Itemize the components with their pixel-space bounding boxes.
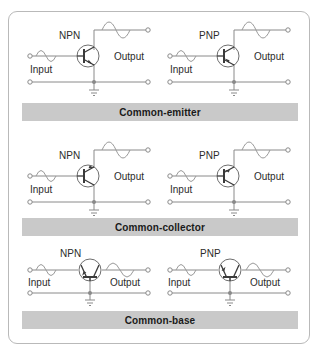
transistor-symbol-pnp	[217, 165, 239, 187]
circuit-cc-pnp: PNP Input Output	[162, 134, 302, 220]
circuit-cc-npn: NPN Input Output	[22, 134, 162, 220]
device-label: NPN	[60, 248, 81, 259]
output-terminal	[146, 28, 150, 32]
input-label: Input	[30, 64, 52, 75]
circuit-ce-npn: NPN Input Output	[22, 14, 162, 100]
ground-icon	[89, 82, 99, 96]
input-label: Input	[30, 184, 52, 195]
label-bar-common-collector: Common-collector	[22, 218, 298, 236]
output-terminal	[146, 148, 150, 152]
input-label: Input	[170, 64, 192, 75]
label-bar-common-base: Common-base	[22, 311, 298, 329]
transistor-symbol-npn	[79, 259, 101, 281]
output-label: Output	[110, 277, 140, 288]
label-common-emitter: Common-emitter	[119, 107, 200, 118]
output-return-terminal	[286, 291, 290, 295]
input-return-terminal	[28, 80, 32, 84]
input-return-terminal	[168, 200, 172, 204]
output-terminal	[286, 28, 290, 32]
transistor-symbol-npn	[77, 45, 99, 67]
input-label: Input	[168, 277, 190, 288]
ground-icon	[229, 202, 239, 216]
label-bar-common-emitter: Common-emitter	[22, 103, 298, 121]
output-return-terminal	[146, 80, 150, 84]
device-label: NPN	[59, 150, 80, 161]
device-label: NPN	[59, 30, 80, 41]
label-common-collector: Common-collector	[115, 222, 205, 233]
output-terminal	[286, 148, 290, 152]
output-label: Output	[114, 171, 144, 182]
ground-icon	[229, 82, 239, 96]
input-return-terminal	[28, 200, 32, 204]
ground-icon	[85, 293, 95, 306]
circuit-cb-npn: NPN Input Output	[22, 248, 162, 310]
device-label: PNP	[199, 150, 220, 161]
bjt-configurations-figure: NPN Input Output	[0, 0, 319, 355]
output-return-terminal	[286, 80, 290, 84]
device-label: PNP	[199, 30, 220, 41]
input-return-terminal	[28, 291, 32, 295]
output-label: Output	[254, 51, 284, 62]
transistor-symbol-pnp	[217, 45, 239, 67]
ground-icon	[89, 202, 99, 216]
output-terminal	[286, 268, 290, 272]
input-terminal	[28, 174, 32, 178]
input-label: Input	[28, 277, 50, 288]
circuit-ce-pnp: PNP Input Output	[162, 14, 302, 100]
input-return-terminal	[168, 80, 172, 84]
input-terminal	[28, 54, 32, 58]
input-terminal	[168, 54, 172, 58]
input-label: Input	[170, 184, 192, 195]
input-terminal	[28, 268, 32, 272]
label-common-base: Common-base	[125, 315, 196, 326]
input-terminal	[168, 268, 172, 272]
transistor-symbol-pnp	[219, 259, 241, 281]
output-terminal	[146, 268, 150, 272]
input-return-terminal	[168, 291, 172, 295]
output-label: Output	[250, 277, 280, 288]
output-label: Output	[254, 171, 284, 182]
transistor-symbol-npn	[77, 165, 99, 187]
output-label: Output	[114, 51, 144, 62]
output-return-terminal	[286, 200, 290, 204]
ground-icon	[225, 293, 235, 306]
input-terminal	[168, 174, 172, 178]
output-return-terminal	[146, 200, 150, 204]
device-label: PNP	[200, 248, 221, 259]
output-return-terminal	[146, 291, 150, 295]
circuit-cb-pnp: PNP Input Output	[162, 248, 302, 310]
